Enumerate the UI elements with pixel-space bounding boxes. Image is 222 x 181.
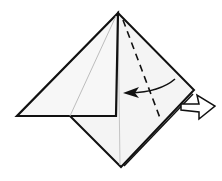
origami-diagram (0, 0, 222, 181)
left-triangle-flap (17, 13, 118, 116)
diagram-canvas (0, 0, 222, 181)
